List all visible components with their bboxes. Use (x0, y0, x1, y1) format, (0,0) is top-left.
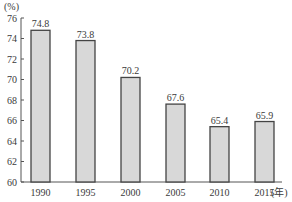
y-tick-label: 72 (7, 54, 17, 65)
bar-value-label: 65.4 (211, 115, 229, 126)
x-axis-unit-label: (年) (271, 186, 288, 199)
y-tick-label: 64 (7, 136, 17, 147)
y-axis-unit-label: (%) (4, 1, 19, 13)
x-category-label: 2005 (166, 187, 186, 198)
y-tick-label: 60 (7, 177, 17, 188)
bar-value-label: 74.8 (32, 18, 50, 29)
y-tick-label: 66 (7, 115, 17, 126)
y-tick-label: 70 (7, 74, 17, 85)
y-tick-label: 74 (7, 33, 17, 44)
y-tick-label: 68 (7, 95, 17, 106)
x-category-label: 2000 (121, 187, 141, 198)
bar-2010 (210, 127, 229, 182)
bar-1990 (31, 30, 50, 182)
bar-2000 (121, 77, 140, 182)
bar-2015 (255, 122, 274, 182)
bar-value-label: 67.6 (167, 92, 185, 103)
y-tick-label: 62 (7, 156, 17, 167)
bar-value-label: 73.8 (77, 29, 95, 40)
x-axis-labels: 199019952000200520102015 (31, 187, 275, 198)
bar-2005 (166, 104, 185, 182)
x-category-label: 1990 (31, 187, 51, 198)
bar-value-label: 70.2 (122, 65, 140, 76)
bar-value-label: 65.9 (256, 110, 274, 121)
bars-group: 74.873.870.267.665.465.9 (31, 18, 274, 182)
bar-chart: (%) 606264666870727476 74.873.870.267.66… (0, 0, 292, 202)
bar-1995 (76, 41, 95, 182)
x-category-label: 1995 (76, 187, 96, 198)
x-category-label: 2010 (210, 187, 230, 198)
y-tick-label: 76 (7, 13, 17, 24)
